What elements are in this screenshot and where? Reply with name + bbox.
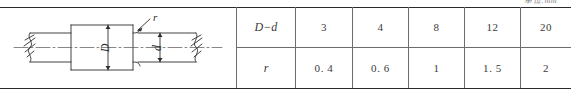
value-dd-0: 3 (321, 21, 327, 33)
cell-dd-3: 12 (465, 7, 521, 48)
stepped-shaft-drawing: D d r (0, 7, 236, 88)
cell-r-0: 0. 4 (296, 48, 353, 89)
table-row-diameter-difference: D−d 3 4 8 12 20 (237, 7, 571, 48)
value-dd-2: 8 (433, 21, 439, 33)
cell-r-3: 1. 5 (465, 48, 521, 89)
spec-table: D−d 3 4 8 12 20 r 0 (236, 7, 571, 88)
left-break-hatch-3 (25, 44, 35, 52)
cell-r-1: 0. 6 (353, 48, 409, 89)
shaft-diagram-svg: D d r (0, 7, 236, 88)
value-r-0: 0. 4 (315, 62, 334, 74)
label-large-diameter: D (98, 43, 112, 53)
dimension-arrow-d-top (158, 33, 163, 37)
dimension-arrow-D-top (106, 25, 111, 29)
bottom-rule (0, 88, 571, 89)
cell-dd-0: 3 (296, 7, 353, 48)
cell-dd-4: 20 (521, 7, 571, 48)
value-dd-3: 12 (486, 21, 498, 33)
leader-line-r (138, 19, 150, 30)
value-dd-4: 20 (540, 21, 552, 33)
row-label-diameter-difference: D−d (237, 7, 296, 48)
value-r-4: 2 (543, 62, 549, 74)
cell-dd-1: 4 (353, 7, 409, 48)
unit-caption: 单位:mm (524, 0, 557, 5)
value-dd-1: 4 (377, 21, 383, 33)
cell-r-2: 1 (409, 48, 465, 89)
dimension-arrow-D-bottom (106, 66, 111, 70)
value-r-1: 0. 6 (371, 62, 390, 74)
row-label-radius: r (237, 48, 296, 89)
value-r-2: 1 (433, 62, 439, 74)
label-fillet-radius: r (153, 11, 158, 23)
table-row-radius: r 0. 4 0. 6 1 1. 5 2 (237, 48, 571, 89)
spec-table-container: D−d 3 4 8 12 20 r 0 (236, 7, 571, 88)
cell-dd-2: 8 (409, 7, 465, 48)
label-small-diameter: d (150, 44, 164, 51)
figure-page: 单位:mm (0, 0, 571, 95)
dimension-arrow-d-bottom (158, 58, 163, 62)
value-r-3: 1. 5 (483, 62, 502, 74)
fillet-arc-bottom (133, 62, 140, 66)
cell-r-4: 2 (521, 48, 571, 89)
